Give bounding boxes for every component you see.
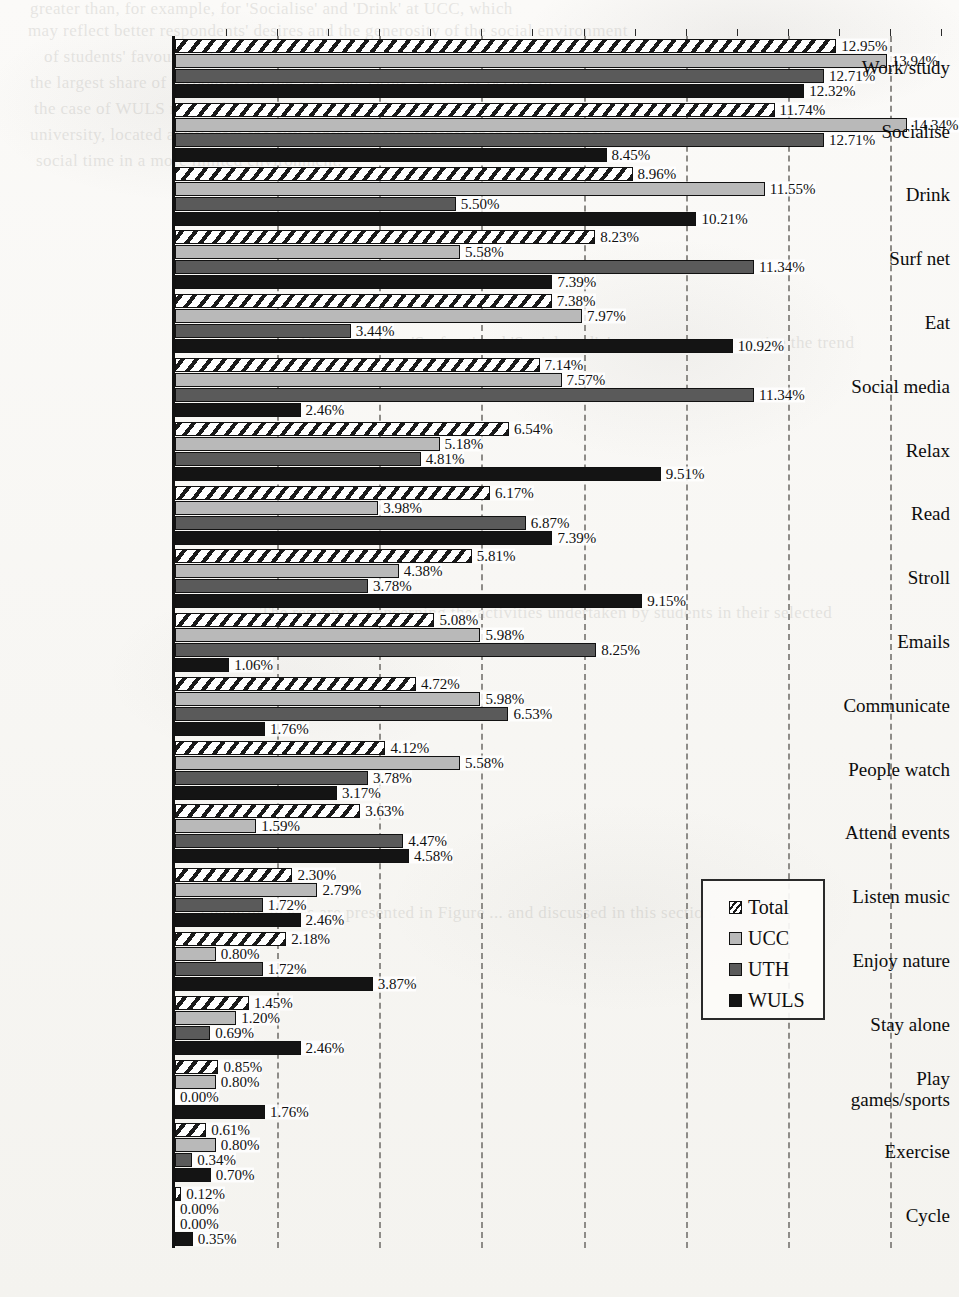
bar-total[interactable] [175, 549, 472, 563]
bar-total[interactable] [175, 422, 509, 436]
bar-total[interactable] [175, 103, 775, 117]
bar-wuls[interactable] [175, 977, 373, 991]
bar-uth[interactable] [175, 707, 508, 721]
category-label-line: People watch [791, 759, 950, 780]
bar-wuls[interactable] [175, 531, 552, 545]
bar-uth[interactable] [175, 834, 403, 848]
bar-wuls[interactable] [175, 1168, 211, 1182]
bar-value-label: 5.18% [440, 436, 484, 451]
bar-value-label: 0.80% [216, 1138, 260, 1153]
bar-value-label: 2.46% [301, 1040, 345, 1055]
bar-ucc[interactable] [175, 501, 378, 515]
bar-uth[interactable] [175, 324, 351, 338]
bar-wuls[interactable] [175, 594, 642, 608]
bar-ucc[interactable] [175, 756, 460, 770]
bar-ucc[interactable] [175, 182, 765, 196]
category-label-line: Enjoy nature [791, 950, 950, 971]
bar-wuls[interactable] [175, 913, 301, 927]
bar-wuls[interactable] [175, 1105, 265, 1119]
bar-total[interactable] [175, 996, 249, 1010]
bar-uth[interactable] [175, 133, 824, 147]
bar-ucc[interactable] [175, 883, 317, 897]
bar-row: 4.12% [175, 741, 941, 755]
bar-wuls[interactable] [175, 1232, 193, 1246]
bar-uth[interactable] [175, 388, 754, 402]
legend-item-wuls[interactable]: WULS [729, 985, 823, 1016]
bar-ucc[interactable] [175, 1138, 216, 1152]
bar-ucc[interactable] [175, 309, 582, 323]
bar-wuls[interactable] [175, 403, 301, 417]
bar-ucc[interactable] [175, 692, 480, 706]
bar-total[interactable] [175, 868, 292, 882]
legend-label: Total [748, 896, 789, 919]
bar-ucc[interactable] [175, 373, 562, 387]
bar-uth[interactable] [175, 197, 456, 211]
bar-uth[interactable] [175, 579, 368, 593]
bar-value-label: 4.58% [409, 849, 453, 864]
bar-value-label: 1.72% [263, 962, 307, 977]
bar-row: 0.61% [175, 1123, 941, 1137]
bar-row: 8.45% [175, 148, 941, 162]
bar-uth[interactable] [175, 452, 421, 466]
bar-wuls[interactable] [175, 722, 265, 736]
bar-value-label: 9.15% [642, 594, 686, 609]
bar-wuls[interactable] [175, 339, 733, 353]
category-label-line: Surf net [791, 248, 950, 269]
bar-total[interactable] [175, 294, 552, 308]
bar-row: 8.96% [175, 167, 941, 181]
bar-uth[interactable] [175, 516, 526, 530]
bar-ucc[interactable] [175, 628, 480, 642]
bar-row: 5.08% [175, 613, 941, 627]
bar-value-label: 11.74% [775, 102, 826, 117]
category-label-line: Eat [791, 312, 950, 333]
bar-total[interactable] [175, 613, 434, 627]
bar-ucc[interactable] [175, 819, 256, 833]
bar-row: 7.38% [175, 294, 941, 308]
bar-wuls[interactable] [175, 658, 229, 672]
category-label-line: Relax [791, 440, 950, 461]
bar-total[interactable] [175, 358, 540, 372]
bar-wuls[interactable] [175, 467, 661, 481]
bar-ucc[interactable] [175, 947, 216, 961]
bar-total[interactable] [175, 486, 490, 500]
bar-uth[interactable] [175, 1153, 192, 1167]
bar-value-label: 3.87% [373, 977, 417, 992]
bar-value-label: 0.61% [206, 1123, 250, 1138]
bar-total[interactable] [175, 804, 360, 818]
bar-ucc[interactable] [175, 1011, 236, 1025]
bar-uth[interactable] [175, 69, 824, 83]
bar-uth[interactable] [175, 962, 263, 976]
bar-uth[interactable] [175, 771, 368, 785]
bar-ucc[interactable] [175, 54, 887, 68]
bar-wuls[interactable] [175, 275, 552, 289]
bar-wuls[interactable] [175, 786, 337, 800]
bar-ucc[interactable] [175, 1075, 216, 1089]
bar-total[interactable] [175, 39, 836, 53]
bar-uth[interactable] [175, 643, 596, 657]
bar-ucc[interactable] [175, 437, 440, 451]
bar-total[interactable] [175, 230, 595, 244]
bar-wuls[interactable] [175, 148, 607, 162]
axis-tick-10 [686, 29, 687, 36]
bar-uth[interactable] [175, 1026, 210, 1040]
bar-wuls[interactable] [175, 1041, 301, 1055]
bar-wuls[interactable] [175, 84, 804, 98]
category-label: Emails [791, 631, 959, 652]
bar-total[interactable] [175, 741, 385, 755]
bar-uth[interactable] [175, 260, 754, 274]
bar-uth[interactable] [175, 898, 263, 912]
bar-total[interactable] [175, 677, 416, 691]
bar-total[interactable] [175, 1123, 206, 1137]
bar-wuls[interactable] [175, 212, 696, 226]
bar-total[interactable] [175, 932, 286, 946]
bar-ucc[interactable] [175, 564, 399, 578]
bar-total[interactable] [175, 1060, 218, 1074]
bar-ucc[interactable] [175, 245, 460, 259]
category-label: Surf net [791, 248, 959, 269]
category-label: Read [791, 503, 959, 524]
bar-total[interactable] [175, 167, 633, 181]
bar-value-label: 0.12% [181, 1187, 225, 1202]
legend-label: WULS [748, 989, 805, 1012]
bar-wuls[interactable] [175, 849, 409, 863]
category-label: Eat [791, 312, 959, 333]
